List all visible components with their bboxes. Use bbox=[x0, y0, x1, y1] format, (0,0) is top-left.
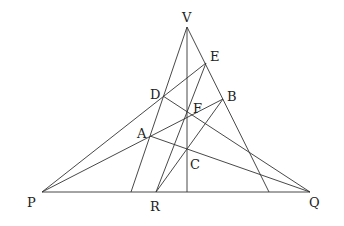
line-segments bbox=[42, 27, 310, 192]
point-label-v: V bbox=[181, 10, 192, 25]
point-label-e: E bbox=[210, 49, 220, 64]
point-label-a: A bbox=[136, 126, 147, 141]
point-label-q: Q bbox=[309, 195, 320, 210]
point-label-f: F bbox=[193, 101, 202, 116]
line-DQ bbox=[163, 96, 310, 192]
point-label-c: C bbox=[190, 157, 200, 172]
point-label-r: R bbox=[150, 199, 161, 214]
point-label-d: D bbox=[150, 87, 160, 102]
point-labels: VEDBFACPRQ bbox=[27, 10, 320, 214]
point-label-b: B bbox=[227, 89, 237, 104]
geometry-diagram: VEDBFACPRQ bbox=[0, 0, 344, 226]
left-side-V-foot bbox=[131, 27, 187, 192]
point-label-p: P bbox=[27, 195, 36, 210]
